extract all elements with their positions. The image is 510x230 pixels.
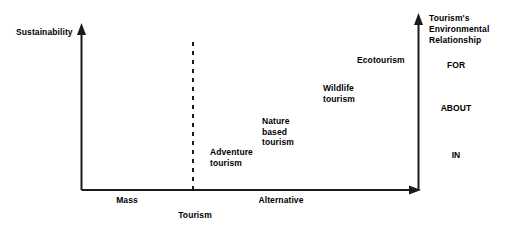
y-axis-right xyxy=(414,13,423,190)
tourism-sustainability-diagram: Sustainability Tourism's Environmental R… xyxy=(0,0,510,230)
tourism-type-ecotourism: Ecotourism xyxy=(357,55,405,66)
relationship-level-in: IN xyxy=(432,150,480,161)
x-axis-label-alternative: Alternative xyxy=(251,195,311,206)
tourism-type-adventure: Adventure tourism xyxy=(210,147,253,168)
right-axis-title: Tourism's Environmental Relationship xyxy=(429,13,489,46)
y-axis-label-sustainability: Sustainability xyxy=(16,27,73,38)
y-axis-arrowhead-icon xyxy=(77,23,86,35)
y-axis-left xyxy=(77,23,86,190)
x-axis-title-tourism: Tourism xyxy=(165,210,225,221)
x-axis-label-mass: Mass xyxy=(105,195,149,206)
x-axis xyxy=(82,186,422,195)
tourism-type-wildlife: Wildlife tourism xyxy=(323,83,355,104)
relationship-level-for: FOR xyxy=(432,60,480,71)
tourism-type-nature-based: Nature based tourism xyxy=(262,116,294,148)
right-axis-arrowhead-icon xyxy=(414,13,423,25)
relationship-level-about: ABOUT xyxy=(426,103,486,114)
